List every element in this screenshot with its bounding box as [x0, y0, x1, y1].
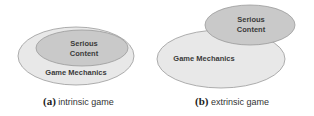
caption-letter: (b) [195, 95, 208, 107]
panel-a-intrinsic: Serious Content Game Mechanics [18, 27, 134, 85]
caption-b: (b) extrinsic game [195, 95, 269, 107]
caption-a: (a) intrinsic game [43, 95, 114, 107]
serious-content-label-line2: Content [70, 49, 99, 58]
caption-text: extrinsic game [211, 97, 269, 107]
caption-text: intrinsic game [58, 97, 114, 107]
serious-content-label-line1: Serious [70, 39, 98, 48]
serious-content-ellipse [36, 30, 128, 66]
caption-letter: (a) [43, 95, 56, 107]
game-mechanics-label: Game Mechanics [45, 68, 106, 77]
serious-content-label-line2: Content [237, 25, 266, 34]
panel-b-extrinsic: Serious Content Game Mechanics [157, 5, 295, 88]
serious-content-label-line1: Serious [237, 15, 265, 24]
game-mechanics-label: Game Mechanics [173, 54, 234, 63]
